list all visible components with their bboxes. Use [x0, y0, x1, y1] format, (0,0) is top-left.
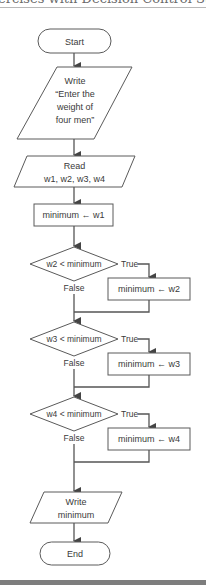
end-terminator: End	[40, 542, 110, 565]
page-bottom-rule	[0, 580, 206, 585]
decision-condition: w2 < minimum	[45, 259, 101, 269]
merge-line	[74, 450, 149, 462]
assign-init-label: minimum ← w1	[42, 210, 104, 220]
true-label: True	[121, 334, 138, 344]
true-arrow	[138, 264, 149, 277]
write-result-parallelogram: Write minimum	[30, 492, 122, 523]
assign-w3-process: minimum ← w3	[108, 353, 190, 375]
assign-w4-process: minimum ← w4	[108, 428, 190, 450]
true-label: True	[121, 409, 138, 419]
false-label: False	[64, 358, 85, 368]
assign-w3-label: minimum ← w3	[118, 359, 180, 369]
write-prompt-line: Write	[65, 76, 86, 86]
read-parallelogram: Read w1, w2, w3, w4	[14, 156, 135, 187]
false-label: False	[64, 283, 85, 293]
read-line: Read	[64, 161, 86, 171]
end-label: End	[67, 549, 83, 559]
merge-line	[74, 300, 149, 312]
write-result-line: Write	[66, 497, 87, 507]
start-label: Start	[65, 37, 85, 47]
decision-condition: w3 < minimum	[45, 334, 101, 344]
merge-line	[74, 375, 149, 387]
true-label: True	[121, 259, 138, 269]
write-prompt-parallelogram: Write “Enter the weight of four men”	[17, 67, 132, 139]
assign-init-process: minimum ← w1	[34, 204, 113, 226]
false-label: False	[64, 433, 85, 443]
assign-w4-label: minimum ← w4	[118, 434, 180, 444]
assign-w2-process: minimum ← w2	[108, 278, 190, 300]
read-line: w1, w2, w3, w4	[43, 174, 105, 184]
true-arrow	[138, 414, 149, 427]
write-prompt-line: “Enter the	[55, 89, 95, 99]
write-prompt-line: four men”	[56, 115, 95, 125]
assign-w2-label: minimum ← w2	[118, 284, 180, 294]
flowchart: Start Write “Enter the weight of four me…	[0, 0, 206, 585]
start-terminator: Start	[38, 29, 111, 53]
decision-condition: w4 < minimum	[45, 409, 101, 419]
true-arrow	[138, 339, 149, 352]
write-result-line: minimum	[58, 510, 95, 520]
write-prompt-line: weight of	[56, 102, 94, 112]
